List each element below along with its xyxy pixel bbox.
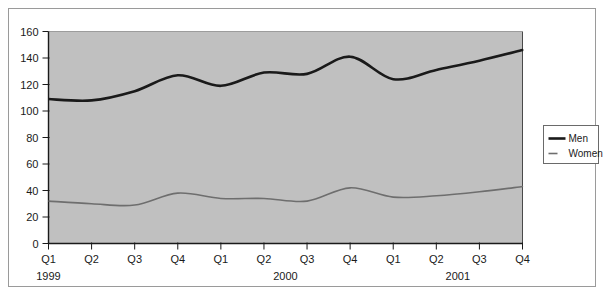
chart-figure: 020406080100120140160 Q1Q2Q3Q4Q1Q2Q3Q4Q1… <box>0 0 607 304</box>
x-year-label: 1999 <box>36 270 60 282</box>
y-tick-label: 0 <box>32 238 38 250</box>
y-tick-label: 160 <box>20 26 38 38</box>
x-tick-label: Q2 <box>429 253 444 265</box>
x-tick-label: Q2 <box>257 253 272 265</box>
plot-area <box>49 32 523 244</box>
x-tick-label: Q3 <box>127 253 142 265</box>
line-chart: 020406080100120140160 Q1Q2Q3Q4Q1Q2Q3Q4Q1… <box>0 0 607 304</box>
y-tick-label: 100 <box>20 105 38 117</box>
legend-label-men: Men <box>569 133 588 144</box>
x-year-label: 2001 <box>446 270 470 282</box>
x-axis-tick-labels: Q1Q2Q3Q4Q1Q2Q3Q4Q1Q2Q3Q4 <box>41 253 530 265</box>
x-axis-year-labels: 199920002001 <box>36 270 470 282</box>
x-year-label: 2000 <box>273 270 297 282</box>
x-tick-label: Q1 <box>386 253 401 265</box>
y-tick-label: 60 <box>26 158 38 170</box>
x-tick-label: Q2 <box>84 253 99 265</box>
x-tick-label: Q1 <box>214 253 229 265</box>
x-tick-label: Q4 <box>343 253 358 265</box>
x-tick-label: Q4 <box>170 253 185 265</box>
y-tick-label: 120 <box>20 79 38 91</box>
y-tick-label: 140 <box>20 52 38 64</box>
y-tick-label: 80 <box>26 132 38 144</box>
x-tick-label: Q3 <box>300 253 315 265</box>
x-tick-label: Q1 <box>41 253 56 265</box>
legend-label-women: Women <box>569 148 603 159</box>
y-tick-label: 40 <box>26 185 38 197</box>
y-axis-tick-labels: 020406080100120140160 <box>20 26 38 250</box>
plot-area-background <box>49 32 523 244</box>
y-tick-label: 20 <box>26 211 38 223</box>
chart-legend: MenWomen <box>544 126 603 164</box>
x-tick-label: Q4 <box>515 253 530 265</box>
x-tick-label: Q3 <box>472 253 487 265</box>
